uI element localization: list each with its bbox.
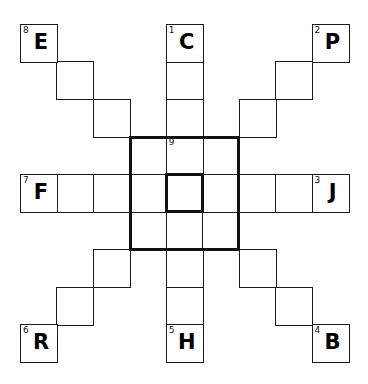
clue-letter: R	[21, 330, 57, 354]
clue-letter: H	[167, 330, 203, 354]
grid-cell-r7-c1[interactable]	[56, 287, 94, 326]
clue-cell-7[interactable]: 7F	[20, 174, 58, 213]
clue-letter: E	[21, 30, 57, 54]
clue-cell-3[interactable]: 3J	[312, 174, 350, 213]
grid-cell-r4-c6[interactable]	[239, 174, 277, 213]
clue-letter: P	[313, 30, 349, 54]
grid-cell-r4-c4[interactable]	[166, 174, 204, 213]
clue-cell-1[interactable]: 1C	[166, 24, 204, 63]
grid-cell-r6-c2[interactable]	[93, 249, 131, 288]
grid-cell-r4-c3[interactable]	[129, 174, 167, 213]
grid-cell-r7-c7[interactable]	[275, 287, 313, 326]
grid-cell-r1-c4[interactable]	[166, 61, 204, 100]
clue-letter: B	[313, 330, 349, 354]
grid-cell-r5-c4[interactable]	[166, 212, 204, 251]
grid-cell-r4-c7[interactable]	[275, 174, 313, 213]
grid-cell-r6-c6[interactable]	[239, 249, 277, 288]
grid-cell-r2-c4[interactable]	[166, 99, 204, 138]
grid-cell-r7-c4[interactable]	[166, 287, 204, 326]
clue-letter: C	[167, 30, 203, 54]
grid-cell-r3-c5[interactable]	[202, 136, 240, 175]
grid-cell-r6-c4[interactable]	[166, 249, 204, 288]
clue-cell-6[interactable]: 6R	[20, 324, 58, 363]
clue-cell-4[interactable]: 4B	[312, 324, 350, 363]
clue-letter: J	[313, 180, 349, 204]
word-puzzle-grid: 1C2P3J4B5H6R7F8E9	[0, 0, 368, 384]
grid-cell-r5-c5[interactable]	[202, 212, 240, 251]
clue-cell-9[interactable]: 9	[166, 136, 204, 175]
grid-cell-r4-c2[interactable]	[93, 174, 131, 213]
clue-number: 9	[169, 137, 175, 147]
grid-cell-r1-c7[interactable]	[275, 61, 313, 100]
grid-cell-r3-c3[interactable]	[129, 136, 167, 175]
clue-cell-5[interactable]: 5H	[166, 324, 204, 363]
grid-cell-r5-c3[interactable]	[129, 212, 167, 251]
grid-cell-r2-c2[interactable]	[93, 99, 131, 138]
clue-cell-2[interactable]: 2P	[312, 24, 350, 63]
grid-cell-r2-c6[interactable]	[239, 99, 277, 138]
grid-cell-r4-c5[interactable]	[202, 174, 240, 213]
clue-letter: F	[21, 180, 57, 204]
grid-cell-r1-c1[interactable]	[56, 61, 94, 100]
clue-cell-8[interactable]: 8E	[20, 24, 58, 63]
grid-cell-r4-c1[interactable]	[56, 174, 94, 213]
